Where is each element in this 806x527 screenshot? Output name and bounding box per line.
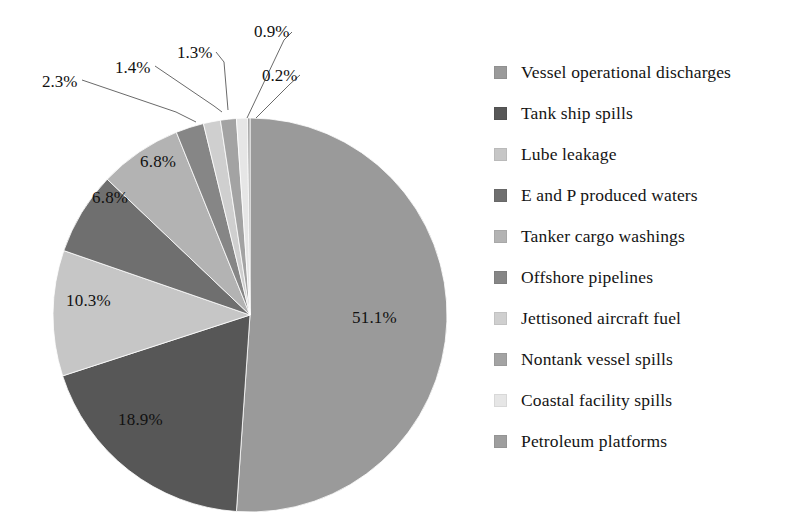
slice-percent-label: 18.9% — [118, 410, 163, 430]
leader-line-offshore-pipelines — [82, 80, 196, 122]
legend-item-label: E and P produced waters — [521, 185, 698, 206]
legend-swatch-icon — [494, 230, 507, 243]
legend-item[interactable]: Coastal facility spills — [494, 380, 806, 421]
slice-percent-label-outer: 1.4% — [115, 58, 150, 78]
legend-item[interactable]: Jettisoned aircraft fuel — [494, 298, 806, 339]
legend-item-label: Vessel operational discharges — [521, 62, 731, 83]
legend-swatch-icon — [494, 271, 507, 284]
legend-item-label: Nontank vessel spills — [521, 349, 673, 370]
legend-item[interactable]: Tanker cargo washings — [494, 216, 806, 257]
leader-line-nontank-vessel-spills — [216, 52, 228, 110]
legend-swatch-icon — [494, 312, 507, 325]
legend-swatch-icon — [494, 148, 507, 161]
legend-item-label: Offshore pipelines — [521, 267, 653, 288]
legend-item[interactable]: Petroleum platforms — [494, 421, 806, 462]
slice-percent-label: 10.3% — [66, 291, 111, 311]
legend-swatch-icon — [494, 189, 507, 202]
pie-plot-area: 51.1%18.9%10.3%6.8%6.8% 2.3%1.4%1.3%0.9%… — [0, 0, 480, 527]
pie-chart-figure: 51.1%18.9%10.3%6.8%6.8% 2.3%1.4%1.3%0.9%… — [0, 0, 806, 527]
legend-swatch-icon — [494, 353, 507, 366]
legend-item-label: Petroleum platforms — [521, 431, 667, 452]
pie-slice[interactable] — [236, 118, 447, 512]
slice-percent-label-outer: 2.3% — [42, 72, 77, 92]
legend-item[interactable]: E and P produced waters — [494, 175, 806, 216]
legend-item-label: Lube leakage — [521, 144, 617, 165]
legend-item[interactable]: Lube leakage — [494, 134, 806, 175]
slice-percent-label: 51.1% — [352, 308, 397, 328]
leader-line-jettisoned-aircraft-fuel — [155, 66, 222, 112]
slice-percent-label-outer: 1.3% — [177, 43, 212, 63]
legend-item-label: Coastal facility spills — [521, 390, 672, 411]
legend-swatch-icon — [494, 435, 507, 448]
legend-item-label: Tank ship spills — [521, 103, 633, 124]
legend-item[interactable]: Tank ship spills — [494, 93, 806, 134]
legend-item-label: Jettisoned aircraft fuel — [521, 308, 681, 329]
slice-percent-label-outer: 0.9% — [254, 22, 289, 42]
legend-item-label: Tanker cargo washings — [521, 226, 685, 247]
slice-percent-label: 6.8% — [92, 188, 128, 208]
legend-item[interactable]: Nontank vessel spills — [494, 339, 806, 380]
legend-item[interactable]: Vessel operational discharges — [494, 52, 806, 93]
legend-swatch-icon — [494, 394, 507, 407]
legend-swatch-icon — [494, 66, 507, 79]
slice-percent-label-outer: 0.2% — [262, 66, 297, 86]
legend-swatch-icon — [494, 107, 507, 120]
chart-legend: Vessel operational dischargesTank ship s… — [494, 52, 806, 462]
slice-percent-label: 6.8% — [140, 152, 176, 172]
legend-item[interactable]: Offshore pipelines — [494, 257, 806, 298]
